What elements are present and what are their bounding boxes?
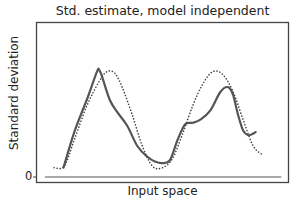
- model-independent-line: [54, 71, 263, 169]
- series-layer: [45, 69, 281, 177]
- plot-area: [0, 0, 303, 207]
- estimate-line: [64, 69, 256, 168]
- axes-frame: [37, 23, 289, 183]
